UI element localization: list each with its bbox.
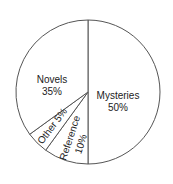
- label-mysteries-name: Mysteries: [97, 90, 140, 101]
- label-novels-pct: 35%: [42, 86, 62, 97]
- label-mysteries-pct: 50%: [108, 102, 128, 113]
- label-novels-name: Novels: [37, 74, 68, 85]
- pie-chart: Mysteries 50% Novels 35% Other 5% Refere…: [0, 0, 173, 184]
